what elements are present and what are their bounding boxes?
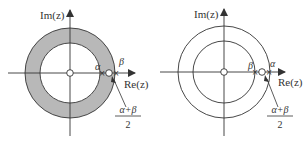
right-alpha-label: α	[270, 58, 276, 69]
left-beta-label: β	[118, 56, 124, 67]
left-midpoint-marker	[106, 70, 113, 77]
left-alpha-label: α	[95, 61, 101, 72]
right-imag-axis-label: Im(z)	[194, 8, 219, 21]
left-beta-x-marker: ×	[113, 69, 120, 78]
right-fraction-denominator: 2	[278, 119, 283, 130]
right-beta-label: β	[247, 60, 253, 71]
right-diagram: × × β α Im(z) Re(z) α+β 2	[160, 8, 303, 136]
left-imag-axis-label: Im(z)	[40, 9, 65, 22]
right-midpoint-marker	[259, 69, 266, 76]
right-origin-marker	[221, 69, 228, 76]
left-diagram: × × α β Im(z) Re(z) α+β 2	[8, 9, 149, 136]
right-midpoint-pointer	[267, 79, 278, 107]
right-real-axis-label: Re(z)	[278, 76, 303, 89]
figure-canvas: × × α β Im(z) Re(z) α+β 2 × × β α Im(z) …	[0, 0, 307, 141]
left-fraction-numerator: α+β	[120, 104, 137, 115]
left-fraction-denominator: 2	[126, 119, 131, 130]
right-alpha-x-marker: ×	[266, 68, 273, 77]
left-real-axis-label: Re(z)	[124, 78, 149, 91]
left-origin-marker	[67, 70, 74, 77]
right-fraction-numerator: α+β	[272, 104, 289, 115]
